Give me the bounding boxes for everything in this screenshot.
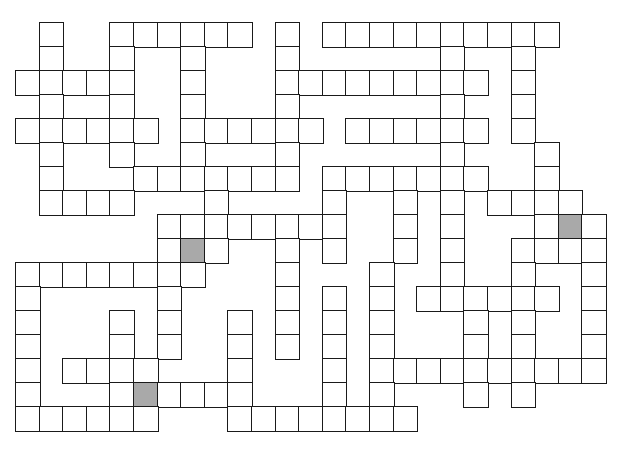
crossword-cell[interactable] (299, 71, 323, 95)
crossword-cell[interactable] (441, 191, 465, 215)
crossword-cell[interactable] (512, 335, 536, 359)
crossword-cell[interactable] (441, 287, 465, 311)
crossword-cell[interactable] (276, 71, 300, 95)
crossword-cell[interactable] (464, 71, 488, 95)
crossword-cell[interactable] (488, 191, 512, 215)
crossword-cell[interactable] (110, 71, 134, 95)
crossword-cell[interactable] (535, 191, 559, 215)
crossword-cell[interactable] (158, 167, 182, 191)
crossword-cell[interactable] (512, 95, 536, 119)
crossword-cell[interactable] (512, 383, 536, 407)
crossword-cell[interactable] (464, 383, 488, 407)
crossword-cell[interactable] (158, 287, 182, 311)
crossword-cell[interactable] (110, 311, 134, 335)
crossword-cell[interactable] (110, 407, 134, 431)
crossword-cell[interactable] (370, 359, 394, 383)
crossword-cell[interactable] (370, 335, 394, 359)
crossword-cell[interactable] (181, 71, 205, 95)
crossword-cell[interactable] (535, 287, 559, 311)
crossword-cell[interactable] (134, 359, 158, 383)
crossword-cell[interactable] (40, 23, 64, 47)
crossword-cell[interactable] (512, 23, 536, 47)
crossword-cell[interactable] (276, 263, 300, 287)
crossword-cell[interactable] (40, 71, 64, 95)
crossword-cell[interactable] (228, 215, 252, 239)
crossword-cell[interactable] (205, 383, 229, 407)
crossword-cell[interactable] (228, 119, 252, 143)
crossword-cell[interactable] (464, 287, 488, 311)
crossword-cell[interactable] (228, 407, 252, 431)
crossword-cell[interactable] (134, 167, 158, 191)
crossword-cell[interactable] (441, 239, 465, 263)
crossword-cell[interactable] (535, 23, 559, 47)
crossword-cell[interactable] (110, 95, 134, 119)
crossword-cell[interactable] (323, 287, 347, 311)
crossword-cell[interactable] (323, 215, 347, 239)
crossword-cell[interactable] (299, 119, 323, 143)
crossword-cell[interactable] (346, 119, 370, 143)
crossword-cell[interactable] (535, 359, 559, 383)
crossword-cell[interactable] (394, 407, 418, 431)
crossword-cell[interactable] (87, 263, 111, 287)
crossword-cell[interactable] (370, 383, 394, 407)
crossword-cell[interactable] (346, 167, 370, 191)
crossword-cell[interactable] (63, 407, 87, 431)
crossword-cell[interactable] (205, 215, 229, 239)
crossword-cell[interactable] (535, 239, 559, 263)
crossword-cell[interactable] (417, 167, 441, 191)
crossword-cell[interactable] (394, 239, 418, 263)
crossword-cell[interactable] (441, 47, 465, 71)
crossword-cell[interactable] (276, 23, 300, 47)
crossword-cell[interactable] (582, 263, 606, 287)
crossword-cell[interactable] (512, 119, 536, 143)
crossword-cell[interactable] (16, 119, 40, 143)
crossword-cell[interactable] (512, 287, 536, 311)
crossword-cell[interactable] (87, 359, 111, 383)
crossword-cell[interactable] (16, 359, 40, 383)
crossword-cell[interactable] (181, 47, 205, 71)
shaded-crossword-cell[interactable] (134, 383, 158, 407)
crossword-cell[interactable] (228, 167, 252, 191)
crossword-cell[interactable] (252, 407, 276, 431)
crossword-cell[interactable] (110, 191, 134, 215)
crossword-cell[interactable] (323, 23, 347, 47)
crossword-cell[interactable] (559, 239, 583, 263)
crossword-cell[interactable] (110, 359, 134, 383)
crossword-cell[interactable] (87, 191, 111, 215)
crossword-cell[interactable] (512, 47, 536, 71)
crossword-cell[interactable] (394, 359, 418, 383)
crossword-cell[interactable] (276, 239, 300, 263)
crossword-cell[interactable] (394, 191, 418, 215)
crossword-cell[interactable] (110, 263, 134, 287)
crossword-cell[interactable] (16, 383, 40, 407)
crossword-cell[interactable] (16, 335, 40, 359)
crossword-cell[interactable] (582, 359, 606, 383)
crossword-cell[interactable] (488, 23, 512, 47)
crossword-cell[interactable] (40, 95, 64, 119)
crossword-cell[interactable] (441, 359, 465, 383)
crossword-cell[interactable] (228, 335, 252, 359)
crossword-cell[interactable] (582, 287, 606, 311)
crossword-cell[interactable] (323, 311, 347, 335)
crossword-cell[interactable] (441, 215, 465, 239)
crossword-cell[interactable] (346, 407, 370, 431)
crossword-cell[interactable] (228, 23, 252, 47)
crossword-cell[interactable] (464, 23, 488, 47)
crossword-cell[interactable] (158, 239, 182, 263)
crossword-cell[interactable] (441, 143, 465, 167)
crossword-cell[interactable] (464, 359, 488, 383)
crossword-cell[interactable] (299, 215, 323, 239)
crossword-cell[interactable] (205, 167, 229, 191)
crossword-cell[interactable] (535, 215, 559, 239)
crossword-cell[interactable] (512, 359, 536, 383)
crossword-cell[interactable] (134, 119, 158, 143)
crossword-cell[interactable] (87, 119, 111, 143)
crossword-cell[interactable] (512, 311, 536, 335)
crossword-cell[interactable] (276, 335, 300, 359)
crossword-cell[interactable] (323, 167, 347, 191)
crossword-cell[interactable] (323, 359, 347, 383)
crossword-cell[interactable] (205, 119, 229, 143)
crossword-cell[interactable] (370, 23, 394, 47)
crossword-cell[interactable] (394, 215, 418, 239)
crossword-cell[interactable] (181, 263, 205, 287)
